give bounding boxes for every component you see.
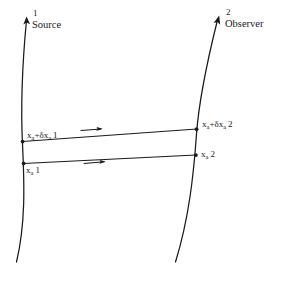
- observer-worldline: [176, 16, 221, 263]
- source-name: Source: [32, 19, 61, 30]
- event-dot-lower-right: [194, 153, 198, 157]
- event-label-upper-right: xa+δxa2: [202, 120, 233, 129]
- event-upper-right-index: 2: [226, 119, 233, 129]
- event-upper-left-index: 1: [51, 130, 58, 140]
- event-lower-right-sub: a: [206, 153, 209, 160]
- spacetime-diagram: 1 Source 2 Observer xa+δxa1 xa1 xa+δxa2 …: [0, 0, 286, 281]
- event-label-lower-left: xa1: [26, 166, 40, 175]
- event-upper-left-sub2: a: [48, 134, 51, 141]
- event-label-upper-left: xa+δxa1: [27, 131, 58, 140]
- event-label-lower-right: xa2: [201, 150, 215, 159]
- diagram-canvas: [0, 0, 286, 281]
- event-upper-right-sub: a: [207, 123, 210, 130]
- source-number: 1: [33, 9, 38, 18]
- observer-name: Observer: [225, 18, 263, 29]
- event-lower-right-x: x: [201, 149, 206, 159]
- event-dot-upper-right: [195, 127, 199, 131]
- event-lower-right-index: 2: [208, 149, 215, 159]
- event-lower-left-sub: a: [31, 169, 34, 176]
- event-upper-right-sub2: a: [223, 123, 226, 130]
- event-dot-lower-left: [22, 162, 26, 166]
- upper-ray-direction-arrow: [81, 127, 103, 131]
- event-lower-left-index: 1: [33, 165, 40, 175]
- observer-number: 2: [226, 8, 231, 17]
- event-upper-left-x: x: [27, 130, 32, 140]
- event-dot-upper-left: [21, 140, 25, 144]
- event-upper-left-sub: a: [32, 134, 35, 141]
- event-lower-left-x: x: [26, 165, 31, 175]
- event-upper-right-x: x: [202, 119, 207, 129]
- lower-ray: [23, 155, 196, 164]
